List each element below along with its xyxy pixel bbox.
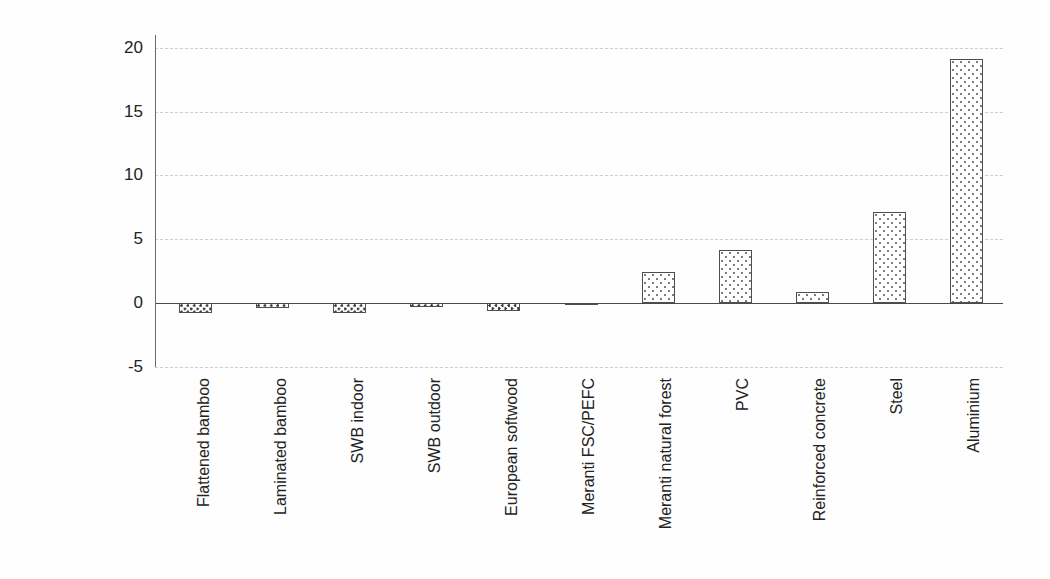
x-tick-label: PVC — [735, 378, 751, 411]
x-tick-label: SWB outdoor — [427, 378, 443, 473]
y-tick-label: 15 — [124, 102, 143, 122]
x-tick-label: Laminated bamboo — [273, 378, 289, 515]
bar — [719, 250, 752, 304]
gridline — [155, 112, 1003, 113]
y-tick-label: 0 — [134, 293, 143, 313]
y-tick-label: 10 — [124, 165, 143, 185]
x-tick-label: Meranti FSC/PEFC — [581, 378, 597, 515]
x-tick-label: Steel — [889, 378, 905, 414]
bar — [873, 212, 906, 303]
bar — [642, 272, 675, 303]
y-axis-line — [155, 35, 156, 367]
y-tick-label: -5 — [128, 357, 143, 377]
bar — [179, 303, 212, 313]
x-tick-label: Flattened bamboo — [196, 378, 212, 507]
x-tick-label: SWB indoor — [350, 378, 366, 463]
bar — [487, 303, 520, 311]
x-tick-label: Aluminium — [966, 378, 982, 453]
x-tick-label: Reinforced concrete — [812, 378, 828, 521]
gridline — [155, 175, 1003, 176]
x-tick-label: Meranti natural forest — [658, 378, 674, 529]
bar — [796, 292, 829, 303]
gridline — [155, 48, 1003, 49]
plot-area: -505101520 — [155, 35, 1003, 367]
zero-baseline — [155, 303, 1003, 304]
bar — [333, 303, 366, 313]
y-tick-label: 20 — [124, 38, 143, 58]
y-tick-label: 5 — [134, 229, 143, 249]
x-tick-label: European softwood — [504, 378, 520, 516]
chart-figure: Carbon footprint over life cycle (tonCO2… — [0, 0, 1050, 579]
gridline — [155, 367, 1003, 368]
bar — [950, 59, 983, 303]
